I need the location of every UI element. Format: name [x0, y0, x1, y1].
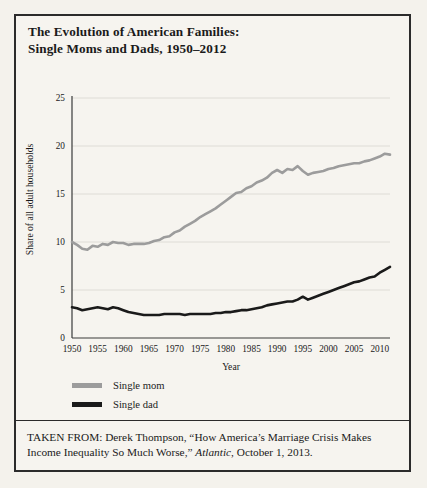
svg-text:20: 20 [56, 141, 66, 151]
caption-source: Atlantic [195, 446, 231, 458]
svg-text:10: 10 [56, 237, 66, 247]
svg-text:0: 0 [60, 333, 65, 343]
legend-swatch-single-mom [72, 383, 102, 388]
svg-text:1950: 1950 [63, 344, 82, 354]
legend-label-single-mom: Single mom [113, 380, 165, 391]
legend-item-single-mom: Single mom [72, 376, 165, 395]
title-line-2: Single Moms and Dads, 1950–2012 [28, 41, 399, 58]
svg-text:25: 25 [56, 93, 66, 103]
svg-text:1975: 1975 [191, 344, 210, 354]
svg-text:2010: 2010 [370, 344, 389, 354]
line-chart: 0510152025195019551960196519701975198019… [16, 74, 409, 370]
svg-text:15: 15 [56, 189, 66, 199]
svg-text:2000: 2000 [319, 344, 338, 354]
chart-area: Share of all adult households 0510152025… [16, 74, 409, 370]
svg-text:2005: 2005 [345, 344, 364, 354]
legend-label-single-dad: Single dad [113, 399, 158, 410]
svg-text:1985: 1985 [242, 344, 261, 354]
svg-text:5: 5 [60, 285, 65, 295]
legend-item-single-dad: Single dad [72, 395, 165, 414]
source-caption: TAKEN FROM: Derek Thompson, “How America… [16, 420, 409, 459]
y-axis-label: Share of all adult households [24, 125, 35, 275]
title-line-1: The Evolution of American Families: [28, 24, 399, 41]
figure-frame: The Evolution of American Families: Sing… [14, 14, 411, 472]
svg-text:1960: 1960 [114, 344, 133, 354]
chart-legend: Single mom Single dad [72, 376, 165, 414]
svg-text:1995: 1995 [294, 344, 313, 354]
legend-swatch-single-dad [72, 402, 102, 407]
svg-text:1965: 1965 [140, 344, 159, 354]
svg-text:1970: 1970 [165, 344, 184, 354]
page-title: The Evolution of American Families: Sing… [28, 24, 399, 57]
svg-text:Year: Year [222, 361, 240, 370]
svg-text:1990: 1990 [268, 344, 287, 354]
svg-text:1955: 1955 [88, 344, 107, 354]
svg-text:1980: 1980 [217, 344, 236, 354]
caption-suffix: , October 1, 2013. [231, 446, 313, 458]
